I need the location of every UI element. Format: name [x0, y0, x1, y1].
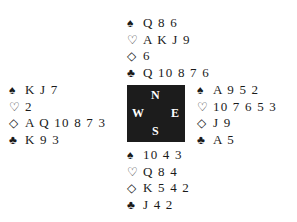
east-spades: ♠A 9 5 2 — [197, 82, 277, 99]
east-clubs: ♣A 5 — [197, 132, 277, 149]
spade-icon: ♠ — [127, 147, 143, 164]
compass-south-label: S — [152, 124, 159, 139]
west-hand: ♠K J 7 ♡2 ◇A Q 10 8 7 3 ♣K 9 3 — [9, 82, 106, 148]
west-diamonds: ◇A Q 10 8 7 3 — [9, 115, 106, 132]
compass-east-label: E — [171, 106, 179, 121]
club-icon: ♣ — [9, 132, 25, 149]
compass-box: N W E S — [127, 85, 185, 142]
south-clubs: ♣J 4 2 — [127, 197, 190, 214]
diamond-icon: ◇ — [127, 180, 143, 197]
heart-icon: ♡ — [127, 164, 143, 181]
diamond-icon: ◇ — [9, 115, 25, 132]
diamond-icon: ◇ — [197, 115, 213, 132]
east-hearts: ♡10 7 6 5 3 — [197, 99, 277, 116]
east-diamonds: ◇J 9 — [197, 115, 277, 132]
club-icon: ♣ — [127, 197, 143, 214]
west-spades: ♠K J 7 — [9, 82, 106, 99]
north-hand: ♠Q 8 6 ♡A K J 9 ◇6 ♣Q 10 8 7 6 — [127, 15, 210, 81]
north-spades: ♠Q 8 6 — [127, 15, 210, 32]
spade-icon: ♠ — [197, 82, 213, 99]
south-hearts: ♡Q 8 4 — [127, 164, 190, 181]
spade-icon: ♠ — [127, 15, 143, 32]
compass-west-label: W — [132, 106, 144, 121]
diamond-icon: ◇ — [127, 48, 143, 65]
north-hearts: ♡A K J 9 — [127, 32, 210, 49]
south-hand: ♠10 4 3 ♡Q 8 4 ◇K 5 4 2 ♣J 4 2 — [127, 147, 190, 213]
club-icon: ♣ — [127, 65, 143, 82]
south-spades: ♠10 4 3 — [127, 147, 190, 164]
heart-icon: ♡ — [9, 99, 25, 116]
compass-north-label: N — [151, 88, 160, 103]
north-clubs: ♣Q 10 8 7 6 — [127, 65, 210, 82]
west-clubs: ♣K 9 3 — [9, 132, 106, 149]
south-diamonds: ◇K 5 4 2 — [127, 180, 190, 197]
spade-icon: ♠ — [9, 82, 25, 99]
east-hand: ♠A 9 5 2 ♡10 7 6 5 3 ◇J 9 ♣A 5 — [197, 82, 277, 148]
heart-icon: ♡ — [127, 32, 143, 49]
west-hearts: ♡2 — [9, 99, 106, 116]
club-icon: ♣ — [197, 132, 213, 149]
heart-icon: ♡ — [197, 99, 213, 116]
north-diamonds: ◇6 — [127, 48, 210, 65]
